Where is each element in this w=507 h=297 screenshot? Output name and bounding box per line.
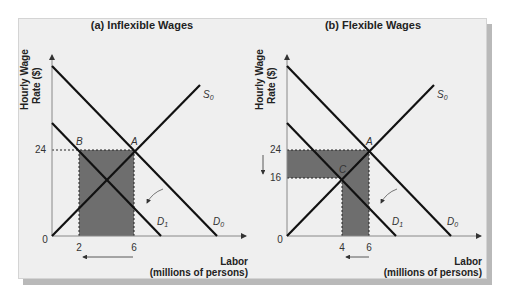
y-axis-label: Hourly Wage: [19, 49, 30, 110]
x-tick-6: 6: [366, 242, 372, 253]
chart-flexible-wages: (b) Flexible Wages Hourly Wage Rate ($) …: [254, 19, 482, 278]
demand-label-d1: D1: [157, 216, 168, 228]
y-tick-24: 24: [270, 144, 282, 155]
unemployment-region: [79, 150, 134, 236]
demand-shift-arrow-icon: [147, 189, 163, 203]
chart-inflexible-wages: (a) Inflexible Wages Hourly Wage Rate ($…: [19, 19, 248, 278]
chart-title: (b) Flexible Wages: [325, 19, 421, 31]
demand-label-d1: D1: [392, 216, 403, 228]
point-b-label: B: [76, 136, 83, 147]
demand-label-d0: D0: [213, 216, 224, 228]
point-a-label: A: [130, 136, 138, 147]
y-tick-24: 24: [35, 144, 47, 155]
y-axis-label: Hourly Wage: [254, 49, 265, 110]
x-axis-label: Labor: [454, 256, 482, 267]
point-c-label: C: [339, 164, 347, 175]
x-axis-label-units: (millions of persons): [150, 267, 248, 278]
point-a-label: A: [365, 136, 373, 147]
x-axis-label: Labor: [220, 256, 248, 267]
origin-label: 0: [42, 234, 48, 245]
demand-shift-arrow-icon: [381, 189, 397, 203]
supply-label: S0: [203, 89, 214, 101]
origin-label: 0: [277, 234, 283, 245]
x-tick-4: 4: [339, 242, 345, 253]
y-tick-16: 16: [270, 172, 282, 183]
y-axis-label-units: Rate ($): [266, 67, 277, 104]
demand-label-d0: D0: [447, 216, 458, 228]
supply-label: S0: [437, 89, 448, 101]
chart-title: (a) Inflexible Wages: [91, 19, 193, 31]
y-axis-label-units: Rate ($): [31, 67, 42, 104]
labor-market-diagram: (a) Inflexible Wages Hourly Wage Rate ($…: [0, 0, 507, 297]
x-axis-label-units: (millions of persons): [384, 267, 482, 278]
x-tick-6: 6: [131, 242, 137, 253]
employment-decrease-region: [342, 178, 369, 236]
x-tick-2: 2: [76, 242, 82, 253]
